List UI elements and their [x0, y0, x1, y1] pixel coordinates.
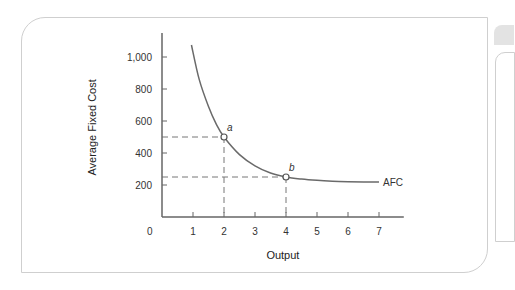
- x-tick-label: 3: [252, 226, 258, 237]
- y-axis-title: Average Fixed Cost: [86, 79, 98, 175]
- point-label-a: a: [227, 122, 233, 133]
- y-tick-label: 600: [135, 116, 152, 127]
- y-tick-label: 800: [135, 84, 152, 95]
- afc-curve: [191, 45, 379, 182]
- x-axis-title: Output: [266, 249, 299, 261]
- y-tick-label: 200: [135, 180, 152, 191]
- x-tick-label: 2: [221, 226, 227, 237]
- afc-series-label: AFC: [383, 177, 403, 188]
- point-a: [221, 134, 227, 140]
- x-tick-label: 5: [314, 226, 320, 237]
- x-tick-label: 4: [283, 226, 289, 237]
- point-label-b: b: [289, 162, 295, 173]
- x-tick-label: 7: [376, 226, 382, 237]
- y-tick-label: 1,000: [127, 52, 152, 63]
- y-tick-label: 400: [135, 148, 152, 159]
- x-tick-label: 6: [345, 226, 351, 237]
- point-b: [283, 174, 289, 180]
- origin-label: 0: [147, 226, 153, 237]
- x-tick-label: 1: [190, 226, 196, 237]
